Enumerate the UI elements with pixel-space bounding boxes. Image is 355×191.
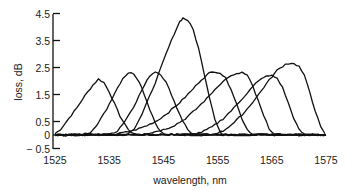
y-tick-label: 3.5 xyxy=(35,35,50,47)
x-tick-label: 1565 xyxy=(260,154,284,166)
x-tick-label: 1575 xyxy=(314,154,338,166)
spectral-curves xyxy=(55,18,326,136)
y-tick-label: 0 xyxy=(44,129,50,141)
y-axis-title: loss, dB xyxy=(12,63,24,100)
x-tick-label: 1555 xyxy=(206,154,230,166)
spectrum-curve-4 xyxy=(55,18,326,136)
x-tick-label: 1535 xyxy=(98,154,122,166)
y-tick-label: − 0.5 xyxy=(26,143,50,155)
y-tick-label: 2.5 xyxy=(35,62,50,74)
spectrum-curve-8 xyxy=(55,63,325,135)
y-tick-label: 1.5 xyxy=(35,89,50,101)
y-axis-ticks: 4.53.52.51.50.50− 0.5 xyxy=(26,8,60,155)
x-axis-tick-labels: 152515351545155515651575 xyxy=(43,154,338,166)
x-axis-title: wavelength, nm xyxy=(152,174,227,186)
y-tick-label: 4.5 xyxy=(35,8,50,20)
x-tick-label: 1545 xyxy=(152,154,176,166)
loss-spectrum-chart: 4.53.52.51.50.50− 0.5 152515351545155515… xyxy=(0,0,355,191)
x-tick-label: 1525 xyxy=(43,154,67,166)
y-tick-label: 0.5 xyxy=(35,116,50,128)
